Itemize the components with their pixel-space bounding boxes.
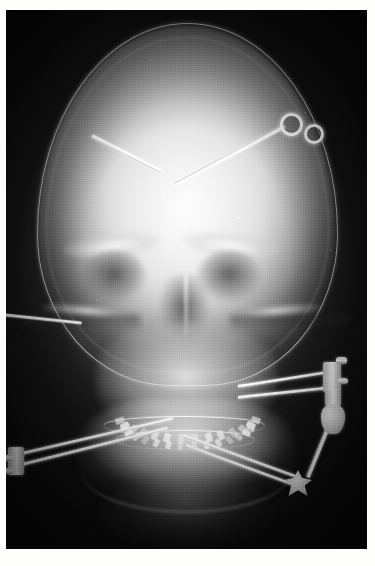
film-grain (6, 10, 367, 549)
radiograph-page (0, 0, 375, 566)
xray-film (6, 10, 367, 549)
